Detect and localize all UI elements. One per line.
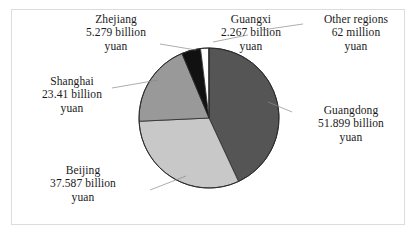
slice-label-guangdong-name: Guangdong bbox=[296, 104, 406, 117]
slice-label-shanghai-value: 23.41 billion bbox=[16, 88, 128, 101]
slice-label-beijing-name: Beijing bbox=[18, 164, 148, 177]
slice-label-zhejiang: Zhejiang 5.279 billion yuan bbox=[56, 13, 176, 53]
slice-label-other-regions-name: Other regions bbox=[305, 13, 407, 26]
slice-label-guangdong-unit: yuan bbox=[296, 131, 406, 144]
slice-label-guangdong: Guangdong 51.899 billion yuan bbox=[296, 104, 406, 144]
slice-label-beijing-value: 37.587 billion bbox=[18, 177, 148, 190]
slice-label-other-regions: Other regions 62 million yuan bbox=[305, 13, 407, 53]
slice-label-zhejiang-value: 5.279 billion bbox=[56, 26, 176, 39]
slice-label-beijing: Beijing 37.587 billion yuan bbox=[18, 164, 148, 204]
pie-slices bbox=[139, 48, 279, 188]
slice-label-guangxi: Guangxi 2.267 billion yuan bbox=[200, 13, 302, 53]
slice-label-guangxi-unit: yuan bbox=[200, 40, 302, 53]
slice-label-zhejiang-name: Zhejiang bbox=[56, 13, 176, 26]
slice-label-shanghai: Shanghai 23.41 billion yuan bbox=[16, 75, 128, 115]
leader-line-beijing bbox=[150, 176, 186, 190]
slice-label-zhejiang-unit: yuan bbox=[56, 40, 176, 53]
slice-label-other-regions-value: 62 million bbox=[305, 26, 407, 39]
slice-label-shanghai-unit: yuan bbox=[16, 102, 128, 115]
slice-label-guangxi-value: 2.267 billion bbox=[200, 26, 302, 39]
slice-label-guangxi-name: Guangxi bbox=[200, 13, 302, 26]
slice-label-beijing-unit: yuan bbox=[18, 191, 148, 204]
slice-label-guangdong-value: 51.899 billion bbox=[296, 117, 406, 130]
slice-label-other-regions-unit: yuan bbox=[305, 40, 407, 53]
slice-label-shanghai-name: Shanghai bbox=[16, 75, 128, 88]
pie-chart-figure: Zhejiang 5.279 billion yuan Guangxi 2.26… bbox=[0, 0, 416, 234]
